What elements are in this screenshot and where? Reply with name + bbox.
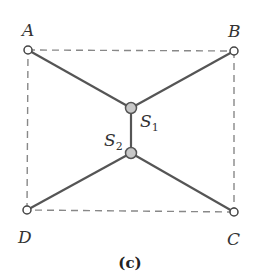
- boundary-da: [27, 50, 28, 210]
- label-s1: S1: [140, 111, 159, 134]
- edge-a-s1: [28, 50, 131, 108]
- steiner-node-s1: [126, 103, 137, 114]
- steiner-node-s2: [126, 148, 137, 159]
- terminal-a: [24, 46, 32, 54]
- edge-c-s2: [131, 153, 234, 212]
- edge-d-s2: [27, 153, 131, 210]
- label-s2: S2: [104, 130, 123, 153]
- edge-b-s1: [131, 51, 234, 108]
- terminal-d: [23, 206, 31, 214]
- steiner-tree-diagram: A B C D S1 S2 (c): [0, 0, 257, 274]
- label-c: C: [227, 229, 240, 249]
- figure-caption: (c): [118, 254, 141, 272]
- terminal-c: [230, 208, 238, 216]
- label-d: D: [17, 227, 32, 247]
- boundary-ab: [28, 50, 234, 51]
- terminal-b: [230, 47, 238, 55]
- boundary-cd: [27, 210, 234, 212]
- label-a: A: [20, 20, 34, 40]
- label-b: B: [227, 21, 241, 41]
- tree-edges: [27, 50, 234, 212]
